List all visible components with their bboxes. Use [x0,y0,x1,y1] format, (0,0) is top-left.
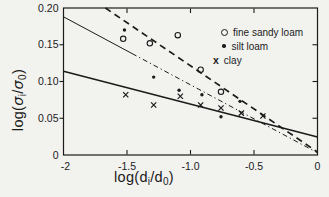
y-axis-title: log(σi/σ0) [10,69,28,131]
legend-label: fine sandy loam [233,27,303,38]
point-silt-loam [123,28,126,31]
open-circle-marker-icon [221,29,228,36]
point-clay [178,94,183,99]
sigma-symbol: σ [10,96,26,106]
point-fine-sandy-loam [120,36,125,41]
y-tick-label: 0.05 [38,112,59,124]
divide-symbol: /d [150,169,163,185]
y-axis-title-text: log( [10,106,26,131]
point-fine-sandy-loam [198,67,203,72]
divide-symbol: / [10,89,26,93]
filled-dot-marker-icon [222,44,226,48]
point-silt-loam [219,115,222,118]
point-silt-loam [200,93,203,96]
legend-label: clay [224,55,242,66]
fit-line-clay-fit [64,71,318,137]
point-silt-loam [238,100,241,103]
point-silt-loam [177,89,180,92]
close-paren: ) [169,169,174,185]
figure-container: -2-1.5-1.0-0.5000.050.100.150.20 log(σi/… [0,0,329,197]
fit-line-silt-loam-fit [132,54,317,153]
y-tick-label: 0.15 [38,38,59,50]
legend-row: x clay [213,53,303,67]
legend-row: fine sandy loam [221,25,303,39]
legend-label: silt loam [232,41,269,52]
point-clay [151,102,156,107]
point-fine-sandy-loam [218,89,223,94]
subscript-0: 0 [17,74,28,80]
close-paren: ) [10,69,26,74]
legend: fine sandy loam silt loam x clay [212,25,303,67]
x-axis-title-text: log(d [114,169,148,185]
y-tick-label: 0.10 [38,75,59,87]
y-tick-label: 0.20 [38,2,59,14]
point-fine-sandy-loam [175,32,180,37]
point-clay [218,105,223,110]
point-clay [123,92,128,97]
fit-line-silt-loam-fit [64,17,133,54]
point-silt-loam [152,75,155,78]
x-axis-title: log(di/d0) [0,169,329,187]
sigma-symbol: σ [10,80,26,90]
x-marker-icon: x [213,55,219,66]
point-fine-sandy-loam [147,41,152,46]
y-tick-label: 0 [53,149,59,161]
legend-row: silt loam [221,39,303,53]
